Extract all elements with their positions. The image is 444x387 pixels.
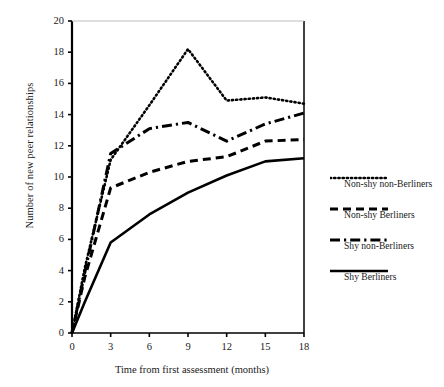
legend-swatch-dotted-icon <box>330 168 392 176</box>
legend-item: Shy Berliners <box>330 261 444 282</box>
legend: Non-shy non-BerlinersNon-shy BerlinersSh… <box>330 168 444 292</box>
series-line-0 <box>72 49 304 333</box>
series-line-3 <box>72 158 304 333</box>
series-line-2 <box>72 113 304 333</box>
legend-label: Non-shy non-Berliners <box>344 178 444 189</box>
legend-item: Non-shy non-Berliners <box>330 168 444 189</box>
legend-swatch-dash-dot-icon <box>330 230 392 238</box>
legend-swatch-dashed-icon <box>330 199 392 207</box>
legend-item: Non-shy Berliners <box>330 199 444 220</box>
legend-label: Non-shy Berliners <box>344 209 444 220</box>
legend-label: Shy Berliners <box>344 271 444 282</box>
legend-swatch-solid-icon <box>330 261 392 269</box>
legend-label: Shy non-Berliners <box>344 240 444 251</box>
legend-item: Shy non-Berliners <box>330 230 444 251</box>
tick-marks <box>68 21 304 337</box>
chart-figure: Number of new peer relationships Time fr… <box>0 0 444 387</box>
series-lines <box>72 49 304 333</box>
